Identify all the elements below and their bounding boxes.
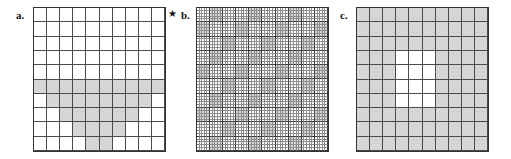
grid-cell: [475, 65, 488, 79]
grid-cell: [449, 108, 462, 122]
grid-cell: [139, 37, 152, 51]
grid-cell: [357, 22, 370, 36]
grid-cell: [126, 51, 139, 65]
grid-cell: [436, 94, 449, 108]
grid-cell: [86, 80, 99, 94]
grid-cell: [86, 65, 99, 79]
grid-cell: [100, 80, 113, 94]
grid-cell: [47, 137, 60, 151]
grid-cell: [60, 65, 73, 79]
grid-cell: [152, 80, 165, 94]
grid-cell: [436, 65, 449, 79]
grid-cell: [357, 8, 370, 22]
grid-cell: [396, 37, 409, 51]
grid-cell: [383, 137, 396, 151]
grid-cell: [113, 8, 126, 22]
grid-cell: [462, 51, 475, 65]
grid-cell: [73, 122, 86, 136]
grid-cell: [325, 148, 328, 151]
grid-cell: [73, 108, 86, 122]
grid-cell: [383, 22, 396, 36]
grid-cell: [462, 65, 475, 79]
grid-cell: [47, 108, 60, 122]
grid-cell: [396, 94, 409, 108]
panel-label-c: c.: [340, 10, 348, 21]
grid-cell: [100, 37, 113, 51]
grid-cell: [383, 80, 396, 94]
grid-cell: [139, 80, 152, 94]
grid-cell: [139, 108, 152, 122]
grid-cell: [152, 108, 165, 122]
grid-cell: [370, 22, 383, 36]
grid-cell: [370, 8, 383, 22]
grid-cell: [113, 80, 126, 94]
grid-cell: [383, 8, 396, 22]
grid-cell: [47, 51, 60, 65]
grid-cell: [86, 122, 99, 136]
grid-cell: [409, 65, 422, 79]
grid-cell: [100, 51, 113, 65]
grid-cell: [34, 8, 47, 22]
grid-cell: [370, 37, 383, 51]
grid-cell: [409, 8, 422, 22]
grid-cell: [34, 22, 47, 36]
grid-cell: [100, 65, 113, 79]
grid-cell: [86, 51, 99, 65]
grid-cell: [409, 51, 422, 65]
grid-cell: [436, 122, 449, 136]
grid-cell: [475, 8, 488, 22]
grid-cell: [462, 108, 475, 122]
grid-cell: [100, 108, 113, 122]
grid-cell: [34, 51, 47, 65]
grid-cell: [126, 137, 139, 151]
grid-cell: [462, 8, 475, 22]
grid-panel-c: [356, 7, 489, 152]
grid-cell: [34, 37, 47, 51]
grid-cell: [139, 65, 152, 79]
grid-cell: [100, 94, 113, 108]
grid-cell: [357, 37, 370, 51]
grid-cell: [357, 94, 370, 108]
grid-cell: [86, 8, 99, 22]
grid-cell: [60, 22, 73, 36]
grid-cell: [47, 94, 60, 108]
grid-cell: [357, 137, 370, 151]
grid-cell: [126, 80, 139, 94]
grid-cell: [73, 22, 86, 36]
figure-root: a.b.c.★: [0, 0, 511, 159]
grid-cell: [139, 122, 152, 136]
panel-label-a: a.: [16, 10, 24, 21]
grid-cell: [396, 8, 409, 22]
grid-cell: [475, 94, 488, 108]
grid-cell: [409, 22, 422, 36]
grid-cell: [475, 37, 488, 51]
grid-cell: [462, 22, 475, 36]
grid-cell: [475, 108, 488, 122]
grid-cell: [423, 65, 436, 79]
grid-cell: [396, 137, 409, 151]
grid-cell: [60, 137, 73, 151]
grid-cell: [113, 137, 126, 151]
grid-cell: [396, 22, 409, 36]
grid-cell: [396, 65, 409, 79]
grid-cell: [47, 37, 60, 51]
grid-cell: [436, 137, 449, 151]
grid-cell: [383, 65, 396, 79]
grid-cell: [357, 65, 370, 79]
grid-cell: [34, 137, 47, 151]
grid-cell: [113, 108, 126, 122]
grid-cell: [47, 8, 60, 22]
grid-cell: [449, 122, 462, 136]
grid-cell: [462, 122, 475, 136]
grid-cell: [436, 37, 449, 51]
grid-cell: [357, 51, 370, 65]
grid-cell: [423, 80, 436, 94]
grid-cell: [100, 22, 113, 36]
grid-cell: [152, 8, 165, 22]
grid-cell: [126, 108, 139, 122]
grid-cell: [423, 94, 436, 108]
grid-cell: [126, 8, 139, 22]
grid-cell: [34, 65, 47, 79]
grid-panel-b: [196, 7, 329, 152]
grid-cell: [370, 65, 383, 79]
